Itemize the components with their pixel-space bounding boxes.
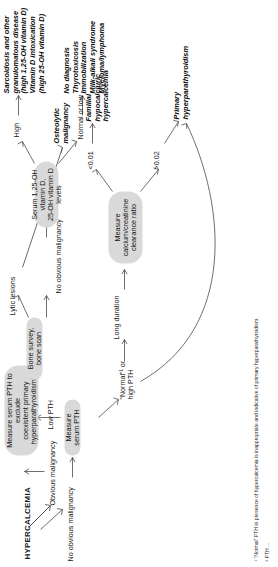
edge-label-obvious-malignancy: Obvious malignancy <box>48 440 56 505</box>
edge-label-ratio-high: >0.02 <box>152 151 160 169</box>
edge-label-ratio-low: <0.01 <box>86 151 94 169</box>
edge-label-line: high PTH <box>126 360 134 399</box>
edge-label-lytic-lesions: Lytic lesions <box>8 276 16 315</box>
node-line: 25-OH vitamin D levels <box>46 166 62 222</box>
terminal-line: (high 25-OH vitamin D) <box>37 7 46 93</box>
node-line: Serum 1,25-OH vitamin D, <box>30 166 46 222</box>
root-label: HYPERCALCEMIA <box>22 487 31 559</box>
edge-label-normal-or-high-pth: “Normal”¹ or high PTH <box>118 360 135 399</box>
edge-label-no-obvious-malignancy-root: No obvious malignancy <box>66 487 74 561</box>
terminal-sarcoidosis-block: Sarcoidosis and other granulomatous dise… <box>2 7 46 93</box>
edge-label-low-pth: Low PTH <box>46 399 54 429</box>
flowchart-canvas: HYPERCALCEMIA Obvious malignancy No obvi… <box>0 0 278 567</box>
terminal-line: malignancy <box>61 102 70 143</box>
terminal-familial-hypocalciuric: Familial hypocalciuric hypercalcemia <box>84 70 110 121</box>
node-serum-vitamin-d: Serum 1,25-OH vitamin D, 25-OH vitamin D… <box>34 161 58 227</box>
node-line: Measure serum PTH <box>64 404 80 450</box>
node-line: Measure serum PTH to exclude <box>5 370 21 450</box>
node-line: Bone survey, bone scan <box>26 322 42 374</box>
node-bone-survey: Bone survey, bone scan <box>26 317 42 379</box>
node-line: clearance ratio <box>129 196 137 258</box>
terminal-line: hyperparathyroidism <box>181 45 190 119</box>
footnote-two: ² PTH ... <box>263 5 270 561</box>
edge-label-high: High <box>12 122 20 137</box>
terminal-line: No diagnosis <box>62 20 71 93</box>
edge-label-no-obvious-malignancy-2: No obvious malignancy <box>54 219 62 293</box>
terminal-line: Sarcoidosis and other <box>2 7 11 93</box>
edge-label-long-duration: Long duration <box>112 295 120 339</box>
terminal-line: Familial <box>84 70 93 121</box>
terminal-line: Primary <box>172 45 181 119</box>
node-measure-serum-pth: Measure serum PTH <box>64 399 80 455</box>
terminal-line: hypercalcemia <box>101 70 110 121</box>
terminal-line: Osteolytic <box>52 102 61 143</box>
node-measure-ratio: Measure calcium/creatinine clearance rat… <box>108 191 142 263</box>
terminal-primary-hyperparathyroidism: Primary hyperparathyroidism <box>172 45 189 119</box>
figure-frame: HYPERCALCEMIA Obvious malignancy No obvi… <box>0 0 278 567</box>
node-line: hyperparathyroidism² <box>29 370 37 450</box>
footnote-one: ¹ “Normal” PTH in presence of hypercalce… <box>252 5 259 561</box>
terminal-osteolytic-malignancy: Osteolytic malignancy <box>52 102 69 143</box>
